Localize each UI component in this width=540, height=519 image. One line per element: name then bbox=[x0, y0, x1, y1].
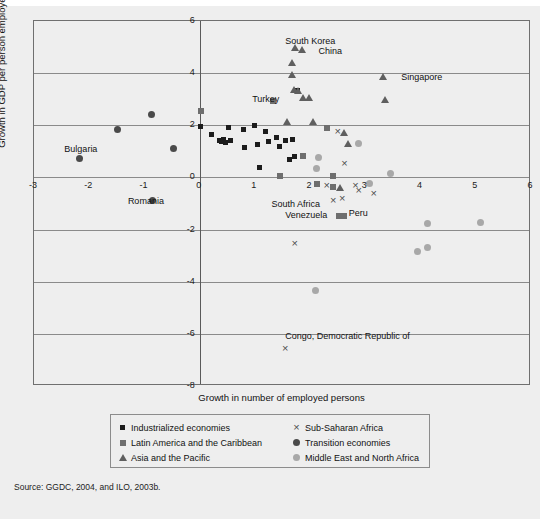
legend-marker-circle-dark-icon bbox=[291, 439, 302, 446]
figure-root: Growth in GDP per person employed Growth… bbox=[0, 0, 540, 519]
y-tick-label: -4 bbox=[169, 276, 195, 286]
data-point-square-black bbox=[257, 165, 262, 170]
y-axis-title: Growth in GDP per person employed bbox=[0, 0, 7, 150]
data-point-square-black bbox=[252, 123, 257, 128]
data-point-x-gray bbox=[338, 194, 347, 203]
annotation-label: South Africa bbox=[271, 199, 320, 209]
data-point-square-black bbox=[228, 138, 233, 143]
legend-column-left: Industrialized economiesLatin America an… bbox=[117, 420, 262, 465]
data-point-square-gray bbox=[198, 108, 204, 114]
legend-item[interactable]: Sub-Saharan Africa bbox=[291, 420, 419, 435]
data-point-square-black bbox=[242, 145, 247, 150]
source-note: Source: GGDC, 2004, and ILO, 2003b. bbox=[14, 482, 160, 492]
data-point-triangle-gray bbox=[305, 94, 313, 101]
data-point-square-gray bbox=[330, 184, 336, 190]
data-point-square-black bbox=[283, 138, 288, 143]
data-point-square-black bbox=[292, 154, 297, 159]
data-point-circle-dark bbox=[170, 145, 177, 152]
data-point-square-black bbox=[274, 135, 279, 140]
data-point-square-gray bbox=[330, 173, 336, 179]
gridline-y--4 bbox=[34, 282, 529, 283]
x-tick-label: 0 bbox=[184, 180, 214, 190]
marker-glyph bbox=[293, 454, 300, 461]
gridline-y--6 bbox=[34, 334, 529, 335]
data-point-x-gray bbox=[281, 344, 290, 353]
annotation-label: Congo, Democratic Republic of bbox=[285, 331, 410, 341]
data-point-square-black bbox=[277, 144, 282, 149]
data-point-circle-light bbox=[355, 140, 362, 147]
data-point-triangle-gray bbox=[309, 118, 317, 125]
data-point-square-black bbox=[290, 137, 295, 142]
legend: Industrialized economiesLatin America an… bbox=[110, 414, 430, 468]
annotation-label: Singapore bbox=[401, 72, 442, 82]
x-tick-label: 4 bbox=[405, 180, 435, 190]
data-point-triangle-gray bbox=[381, 96, 389, 103]
gridline-y-2 bbox=[34, 125, 529, 126]
data-point-square-black bbox=[198, 124, 203, 129]
gridline-y--2 bbox=[34, 230, 529, 231]
legend-label: Middle East and North Africa bbox=[305, 453, 419, 463]
y-tick-label: 4 bbox=[169, 67, 195, 77]
annotation-label: Romania bbox=[128, 196, 164, 206]
legend-item[interactable]: Latin America and the Caribbean bbox=[117, 435, 262, 450]
data-point-square-black bbox=[255, 142, 260, 147]
legend-label: Sub-Saharan Africa bbox=[305, 423, 383, 433]
data-point-square-gray bbox=[341, 213, 347, 219]
annotation-label: Bulgaria bbox=[64, 144, 97, 154]
marker-glyph bbox=[293, 439, 300, 446]
legend-label: Latin America and the Caribbean bbox=[131, 438, 262, 448]
data-point-triangle-gray bbox=[336, 184, 344, 191]
y-tick-label: 2 bbox=[169, 119, 195, 129]
data-point-x-gray bbox=[329, 196, 338, 205]
legend-item[interactable]: Middle East and North Africa bbox=[291, 450, 419, 465]
data-point-triangle-gray bbox=[288, 59, 296, 66]
data-point-triangle-gray bbox=[344, 140, 352, 147]
marker-glyph bbox=[120, 425, 125, 430]
data-point-x-gray bbox=[290, 239, 299, 248]
x-tick-label: 5 bbox=[460, 180, 490, 190]
data-point-square-gray bbox=[324, 125, 330, 131]
data-point-circle-light bbox=[312, 287, 319, 294]
legend-marker-x-gray-icon bbox=[291, 423, 302, 432]
data-point-triangle-gray bbox=[298, 46, 306, 53]
data-point-square-black bbox=[209, 132, 214, 137]
y-axis-line bbox=[200, 21, 201, 384]
legend-label: Transition economies bbox=[305, 438, 390, 448]
data-point-circle-light bbox=[414, 248, 421, 255]
legend-marker-square-gray-icon bbox=[117, 440, 128, 446]
data-point-x-gray bbox=[369, 189, 378, 198]
marker-glyph bbox=[120, 440, 126, 446]
data-point-square-gray bbox=[277, 173, 283, 179]
data-point-circle-dark bbox=[114, 126, 121, 133]
marker-glyph bbox=[292, 423, 301, 432]
gridline-y-4 bbox=[34, 73, 529, 74]
data-point-circle-dark bbox=[148, 111, 155, 118]
data-point-x-gray bbox=[333, 127, 342, 136]
y-tick-label: -6 bbox=[169, 328, 195, 338]
data-point-square-black bbox=[287, 157, 292, 162]
data-point-circle-dark bbox=[76, 155, 83, 162]
data-point-circle-light bbox=[477, 219, 484, 226]
data-point-square-gray bbox=[300, 153, 306, 159]
plot-area: South KoreaChinaSingaporeTurkeyBulgariaR… bbox=[33, 20, 530, 385]
y-tick-label: -8 bbox=[169, 380, 195, 390]
data-point-square-black bbox=[266, 139, 271, 144]
legend-item[interactable]: Industrialized economies bbox=[117, 420, 262, 435]
x-tick-label: -2 bbox=[73, 180, 103, 190]
legend-item[interactable]: Transition economies bbox=[291, 435, 419, 450]
legend-column-right: Sub-Saharan AfricaTransition economiesMi… bbox=[291, 420, 419, 465]
annotation-label: South Korea bbox=[285, 36, 335, 46]
data-point-square-black bbox=[226, 125, 231, 130]
annotation-label: Venezuela bbox=[285, 210, 327, 220]
x-tick-label: -3 bbox=[18, 180, 48, 190]
x-tick-label: 2 bbox=[294, 180, 324, 190]
x-tick-label: 1 bbox=[239, 180, 269, 190]
x-tick-label: 3 bbox=[349, 180, 379, 190]
data-point-circle-light bbox=[313, 165, 320, 172]
data-point-circle-light bbox=[387, 170, 394, 177]
annotation-label: Peru bbox=[349, 208, 368, 218]
legend-item[interactable]: Asia and the Pacific bbox=[117, 450, 262, 465]
data-point-x-gray bbox=[340, 159, 349, 168]
data-point-triangle-gray bbox=[283, 118, 291, 125]
legend-label: Asia and the Pacific bbox=[131, 453, 210, 463]
